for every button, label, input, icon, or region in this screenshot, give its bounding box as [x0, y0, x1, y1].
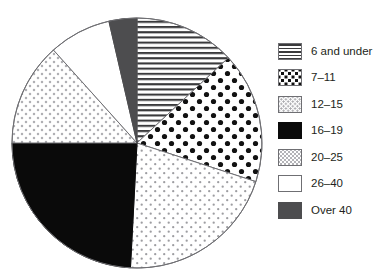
- legend-label: 26–40: [311, 178, 343, 190]
- legend-item-over-40[interactable]: Over 40: [278, 197, 390, 224]
- pie-slice-16-19[interactable]: [12, 143, 137, 268]
- solid-black-swatch: [278, 122, 302, 139]
- legend-item-6-and-under[interactable]: 6 and under: [278, 38, 390, 65]
- pie-chart-figure: 6 and under 7–11 12–15 16–19 20–25 26–40…: [0, 0, 392, 274]
- legend-label: 7–11: [311, 72, 336, 84]
- stipple-dots-swatch: [278, 149, 302, 166]
- pie-chart-canvas: [0, 0, 274, 274]
- legend-item-26-40[interactable]: 26–40: [278, 171, 390, 198]
- legend-item-12-15[interactable]: 12–15: [278, 91, 390, 118]
- horizontal-lines-swatch: [278, 43, 302, 60]
- legend-label: 16–19: [311, 125, 343, 137]
- legend-label: 12–15: [311, 99, 343, 111]
- large-dots-swatch: [278, 69, 302, 86]
- legend-label: 20–25: [311, 152, 343, 164]
- pie-svg: [0, 0, 274, 274]
- legend-item-7-11[interactable]: 7–11: [278, 65, 390, 92]
- dark-gray-swatch: [278, 202, 302, 219]
- legend-item-20-25[interactable]: 20–25: [278, 144, 390, 171]
- legend-label: Over 40: [311, 205, 352, 217]
- white-swatch: [278, 175, 302, 192]
- legend-label: 6 and under: [311, 46, 372, 58]
- pie-slices: [12, 18, 262, 268]
- chart-legend: 6 and under 7–11 12–15 16–19 20–25 26–40…: [278, 38, 390, 224]
- legend-item-16-19[interactable]: 16–19: [278, 118, 390, 145]
- fine-dots-swatch: [278, 96, 302, 113]
